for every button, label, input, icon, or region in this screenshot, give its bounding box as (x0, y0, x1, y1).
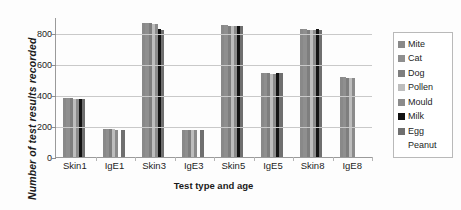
x-tick-label: IgE8 (332, 160, 372, 176)
legend-swatch-icon (398, 99, 405, 106)
legend-swatch-icon (398, 41, 405, 48)
y-tick-mark (52, 127, 56, 128)
bar-group (56, 18, 96, 157)
bar-groups (56, 18, 372, 157)
legend-label: Dog (408, 69, 425, 78)
legend: MiteCatDogPollenMouldMilkEggPeanut (393, 32, 453, 158)
legend-label: Pollen (408, 83, 433, 92)
bar-group (293, 18, 333, 157)
bar (319, 30, 322, 157)
y-tick-mark (52, 158, 56, 159)
plot-area (55, 18, 372, 158)
y-tick-mark (52, 65, 56, 66)
x-tick-label: IgE3 (174, 160, 214, 176)
legend-swatch-icon (398, 84, 405, 91)
legend-swatch-icon (398, 142, 405, 149)
x-tick-label: Skin1 (55, 160, 95, 176)
gridline (56, 96, 372, 97)
bar (194, 130, 197, 157)
bar (161, 30, 164, 157)
bar (240, 26, 243, 157)
x-tick-mark (372, 157, 373, 161)
y-tick-mark (52, 96, 56, 97)
x-axis-title: Test type and age (55, 180, 372, 191)
x-tick-label: IgE1 (95, 160, 135, 176)
y-tick-mark (52, 34, 56, 35)
x-axis-tick-labels: Skin1IgE1Skin3IgE3Skin5IgE5Skin8IgE8 (55, 160, 372, 176)
x-tick-label: Skin3 (134, 160, 174, 176)
bar-group (254, 18, 294, 157)
bar (82, 99, 85, 157)
legend-item[interactable]: Pollen (398, 81, 449, 96)
gridline (56, 127, 372, 128)
legend-item[interactable]: Egg (398, 124, 449, 139)
y-tick-label: 600 (37, 60, 52, 70)
legend-item[interactable]: Peanut (398, 139, 449, 154)
legend-item[interactable]: Mould (398, 95, 449, 110)
legend-swatch-icon (398, 113, 405, 120)
y-tick-label: 200 (37, 122, 52, 132)
legend-swatch-icon (398, 70, 405, 77)
bar-group (214, 18, 254, 157)
legend-item[interactable]: Milk (398, 110, 449, 125)
bar-group (135, 18, 175, 157)
legend-label: Peanut (408, 141, 437, 150)
gridline (56, 65, 372, 66)
legend-item[interactable]: Mite (398, 37, 449, 52)
bar-group (175, 18, 215, 157)
y-tick-label: 400 (37, 91, 52, 101)
y-tick-label: 800 (37, 29, 52, 39)
gridline (56, 34, 372, 35)
chart-figure: Number of test results recorded 02004006… (0, 0, 461, 210)
legend-item[interactable]: Dog (398, 66, 449, 81)
legend-label: Egg (408, 127, 424, 136)
x-tick-label: IgE5 (253, 160, 293, 176)
bar (352, 78, 355, 157)
bar (121, 130, 124, 157)
x-tick-label: Skin8 (293, 160, 333, 176)
bar (115, 130, 118, 157)
legend-label: Cat (408, 54, 422, 63)
legend-label: Mite (408, 40, 425, 49)
y-axis-tick-labels: 0200400600800 (26, 18, 52, 158)
bar (200, 130, 203, 157)
legend-swatch-icon (398, 55, 405, 62)
legend-label: Milk (408, 112, 424, 121)
legend-item[interactable]: Cat (398, 52, 449, 67)
legend-swatch-icon (398, 128, 405, 135)
x-tick-label: Skin5 (214, 160, 254, 176)
bar-group (333, 18, 373, 157)
bar-group (96, 18, 136, 157)
legend-label: Mould (408, 98, 433, 107)
bar (279, 73, 282, 157)
